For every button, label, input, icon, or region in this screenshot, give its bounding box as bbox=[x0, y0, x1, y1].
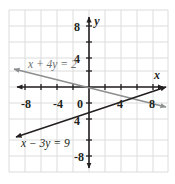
equation-label-gray: x + 4y = 2 bbox=[27, 58, 77, 71]
x-axis-letter: x bbox=[153, 68, 160, 82]
graph-canvas: -8 -4 0 4 8 8 4 4 -8 y x x + 4y = 2 x − … bbox=[0, 0, 175, 184]
coordinate-graph-figure: -8 -4 0 4 8 8 4 4 -8 y x x + 4y = 2 x − … bbox=[0, 0, 175, 184]
y-axis-letter: y bbox=[92, 14, 100, 28]
x-tick-label-4: 4 bbox=[117, 97, 123, 111]
equation-label-dark: x − 3y = 9 bbox=[20, 137, 70, 150]
y-tick-label--8: -8 bbox=[74, 150, 84, 164]
x-tick-label-0: 0 bbox=[77, 97, 83, 111]
x-tick-label--4: -4 bbox=[53, 97, 63, 111]
y-tick-label-8: 8 bbox=[74, 20, 80, 34]
x-tick-label-8: 8 bbox=[149, 97, 155, 111]
y-tick-label--4: 4 bbox=[74, 114, 80, 128]
x-tick-label--8: -8 bbox=[21, 97, 31, 111]
